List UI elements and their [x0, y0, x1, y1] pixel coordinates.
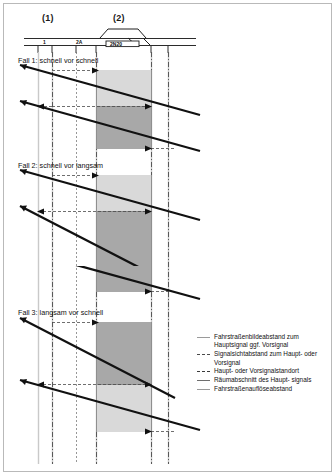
legend: Fahrstraßenbildeabstand zum Hauptsignal … — [197, 333, 329, 394]
legend-label-1: Signalsichtabstand zum Haupt- oder Vorsi… — [214, 350, 317, 365]
case-2-label: Fall 2: schnell vor langsam — [18, 161, 103, 170]
signal-label-2a: 2A — [76, 39, 82, 45]
track-schematic-svg — [0, 0, 336, 60]
legend-label-4: Fahrstraßenauflöseabstand — [214, 385, 292, 392]
legend-swatch-solid-dark-icon — [197, 380, 210, 381]
signal-label-1: 1 — [43, 39, 46, 45]
legend-item-2: Haupt- oder Vorsignalstandort — [197, 367, 329, 375]
case-1-label: Fall 1: schnell vor schnell — [18, 56, 98, 65]
legend-item-4: Fahrstraßenauflöseabstand — [197, 385, 329, 393]
legend-swatch-dash-dot-2-icon — [197, 371, 210, 372]
legend-label-2: Haupt- oder Vorsignalstandort — [214, 367, 299, 374]
track-schematic: 1 2A 2N20 — [0, 0, 336, 60]
case-2-block: Fall 2: schnell vor langsam — [0, 161, 336, 266]
legend-swatch-solid-grey-icon — [197, 337, 210, 338]
legend-item-3: Räumabschnitt des Haupt- signals — [197, 376, 329, 384]
legend-label-0: Fahrstraßenbildeabstand zum Hauptsignal … — [214, 333, 299, 348]
case-1-svg — [0, 56, 336, 161]
legend-label-3: Räumabschnitt des Haupt- signals — [214, 376, 311, 383]
signal-label-2n20: 2N20 — [110, 41, 122, 47]
legend-swatch-dash-dot-icon — [197, 354, 210, 355]
case-1-block: Fall 1: schnell vor schnell — [0, 56, 336, 161]
legend-item-1: Signalsichtabstand zum Haupt- oder Vorsi… — [197, 350, 329, 367]
figure-canvas: (1) (2) 1 2A 2N20 — [0, 0, 336, 476]
legend-swatch-solid-grey-2-icon — [197, 389, 210, 390]
legend-item-0: Fahrstraßenbildeabstand zum Hauptsignal … — [197, 333, 329, 350]
case-2-svg — [0, 161, 336, 266]
case-3-label: Fall 3: langsam vor schnell — [18, 308, 103, 317]
